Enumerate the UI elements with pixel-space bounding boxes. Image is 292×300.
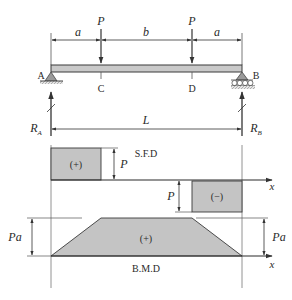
bending-moment-diagram: (+) Pa Pa x B.M.D <box>7 218 285 274</box>
sfd-negative-magnitude: P <box>166 189 175 203</box>
point-d-label: D <box>188 83 195 94</box>
reaction-a-label: RA <box>29 121 42 137</box>
support-b-label: B <box>253 70 260 81</box>
roller-support-icon <box>231 72 255 89</box>
bmd-right-magnitude: Pa <box>271 230 285 244</box>
point-c-label: C <box>98 83 105 94</box>
sfd-title: S.F.D <box>135 148 158 159</box>
bmd-title: B.M.D <box>132 263 160 274</box>
support-a-label: A <box>37 70 45 81</box>
sfd-negative-sign: (−) <box>211 191 223 203</box>
dimension-a-left-label: a <box>75 25 81 39</box>
shear-force-diagram: (+) P S.F.D x (−) P <box>51 148 275 212</box>
sfd-positive-magnitude: P <box>119 157 128 171</box>
span-label: L <box>142 113 150 127</box>
beam <box>51 65 242 72</box>
beam-section: a b a P P C D A <box>29 14 262 137</box>
bmd-axis-label: x <box>269 258 275 270</box>
load-left-label: P <box>96 14 105 28</box>
dimension-a-right-label: a <box>214 25 220 39</box>
reaction-b-label: RB <box>249 121 262 137</box>
dimension-b-label: b <box>143 25 149 39</box>
load-right-label: P <box>187 14 196 28</box>
bmd-positive-sign: (+) <box>140 233 152 245</box>
beam-diagram-canvas: a b a P P C D A <box>0 0 292 300</box>
bmd-left-magnitude: Pa <box>7 230 21 244</box>
sfd-axis-label: x <box>269 180 275 192</box>
sfd-positive-sign: (+) <box>70 159 82 171</box>
